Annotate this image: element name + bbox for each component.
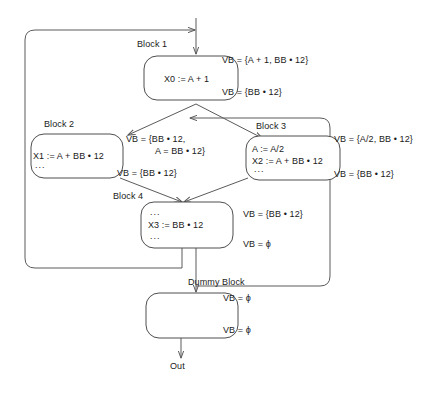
node-block4-code-line-3: ... <box>150 231 161 241</box>
edge-block1-to-block2 <box>128 104 196 135</box>
node-block1-vb-in: VB = {A + 1, BB • 12} <box>222 54 308 66</box>
edge-block3-to-block4 <box>184 178 248 202</box>
node-block3-name: Block 3 <box>256 120 286 132</box>
node-block2-vb-in-line-2: A = BB • 12} <box>155 145 205 157</box>
node-block2-name: Block 2 <box>44 118 74 130</box>
node-block4-code-line-1: ... <box>150 207 161 217</box>
node-dummy-vb-in: VB = ϕ <box>223 292 251 304</box>
node-block4-name: Block 4 <box>113 190 143 202</box>
node-block2-code-line-2: ... <box>35 160 46 170</box>
node-block4-code-line-2: X3 := BB • 12 <box>148 219 203 231</box>
node-block2-vb-out: VB = {BB • 12} <box>117 167 177 179</box>
node-block1-name: Block 1 <box>137 38 167 50</box>
exit-label: Out <box>170 360 185 372</box>
node-block3-code-line-3: ... <box>254 164 265 174</box>
node-block3-vb-out: VB = {BB • 12} <box>334 168 394 180</box>
node-dummy-vb-out: VB = ϕ <box>223 324 251 336</box>
node-block2-vb-in-line-1: VB = {BB • 12, <box>126 133 185 145</box>
edge-block1-to-block3 <box>196 104 262 138</box>
node-block4-vb-out: VB = ϕ <box>243 238 271 250</box>
node-block3-code-line-1: A := A/2 <box>252 143 284 155</box>
node-block3-vb-in: VB = {A/2, BB • 12} <box>334 133 413 145</box>
diagram-canvas: Block 1 X0 := A + 1 VB = {A + 1, BB • 12… <box>0 0 441 396</box>
node-block1-vb-out: VB = {BB • 12} <box>222 86 282 98</box>
node-block4-vb-in: VB = {BB • 12} <box>243 208 303 220</box>
diagram-edges-layer <box>0 0 441 396</box>
node-dummy-name: Dummy Block <box>188 276 245 288</box>
node-block1-code-line-1: X0 := A + 1 <box>164 73 209 85</box>
